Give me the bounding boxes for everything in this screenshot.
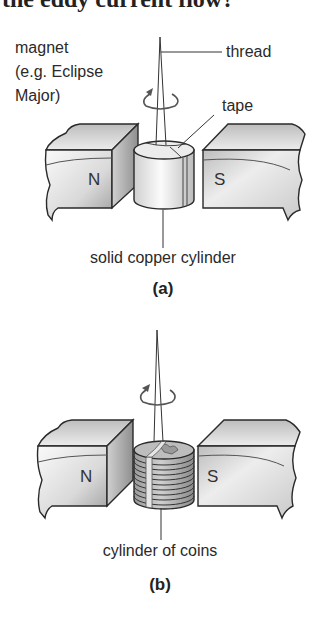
tape-leader-line — [178, 115, 214, 148]
thread-a — [156, 37, 166, 145]
cylinder-of-coins — [134, 441, 194, 509]
thread-b — [154, 330, 163, 442]
magnet-label-line2: (e.g. Eclipse — [15, 62, 103, 82]
north-pole-label-b: N — [80, 467, 92, 487]
south-pole-label-a: S — [214, 170, 225, 190]
solid-copper-cylinder — [134, 141, 194, 209]
figure-b — [38, 330, 301, 540]
tape-label: tape — [222, 96, 253, 116]
magnet-label-line3: Major) — [15, 86, 60, 106]
thread-label: thread — [226, 42, 271, 62]
rotation-arrow-icon-b — [141, 384, 175, 405]
figure-a-caption: (a) — [153, 279, 174, 299]
figure-b-caption: (b) — [149, 575, 171, 595]
solid-copper-cylinder-label: solid copper cylinder — [90, 248, 236, 268]
magnet-label-line1: magnet — [15, 38, 68, 58]
cylinder-of-coins-label: cylinder of coins — [103, 541, 218, 561]
rotation-arrow-icon-a — [144, 88, 178, 109]
south-pole-label-b: S — [207, 467, 218, 487]
north-pole-label-a: N — [88, 170, 100, 190]
